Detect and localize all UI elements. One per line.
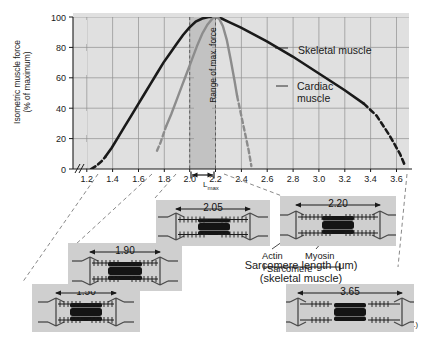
- lmax-label: Lmax: [203, 180, 219, 191]
- sarcomere-panel-2-05: 2.05: [156, 200, 270, 246]
- sarcomere-panel-3-65: 3.65: [286, 284, 414, 332]
- y-axis-title-line2: (% of maximum): [22, 52, 32, 113]
- figure-root: 100 80 60 40 20 0 1.2 1.4 1.6 1.8 2.0 2.…: [0, 0, 446, 337]
- actin-label: Actin: [262, 251, 283, 261]
- sarcomere-panel-value: 2.20: [280, 198, 396, 209]
- sarcomere-panel-1-90: 1.90: [68, 243, 182, 291]
- y-tick-labels: 100 80 60 40 20 0: [51, 13, 66, 175]
- x-tick-label: 1.6: [132, 174, 145, 184]
- x-tick-label: 3.2: [339, 174, 352, 184]
- myosin-filament: [334, 317, 366, 322]
- x-tick-label: 3.6: [390, 174, 403, 184]
- skeletal-muscle-label: Skeletal muscle: [298, 44, 372, 56]
- sarcomere-panel-1-50: 1.50: [32, 284, 140, 332]
- x-tick-label: 1.8: [158, 174, 171, 184]
- x-tick-labels: 1.2 1.4 1.6 1.8 2.0 2.2 2.4 2.6 2.8 3.0 …: [81, 174, 403, 184]
- myosin-filament: [322, 221, 354, 229]
- myosin-filament: [198, 223, 230, 231]
- x-tick-label: 2.6: [261, 174, 274, 184]
- x-tick-label: 2.8: [287, 174, 300, 184]
- myosin-filament: [108, 267, 142, 275]
- y-tick-label: 100: [51, 13, 66, 23]
- connector-3-65: [398, 174, 407, 267]
- y-tick-label: 60: [56, 73, 66, 83]
- myosin-filament: [334, 308, 366, 316]
- myosin-label: Myosin: [305, 251, 334, 261]
- y-tick-label: 20: [56, 134, 66, 144]
- sarcomere-panel-value: 3.65: [286, 286, 414, 297]
- sarcomere-label: Sarcomere: [267, 264, 312, 274]
- x-tick-label: 1.4: [106, 174, 119, 184]
- connector-1-90: [75, 174, 152, 245]
- y-ticks: [69, 17, 73, 169]
- x-tick-label: 3.4: [364, 174, 377, 184]
- sarcomere-panel-2-20: 2.20: [280, 196, 396, 246]
- range-of-max-force-label: Range of max. force: [208, 23, 218, 107]
- myosin-filament: [70, 308, 102, 316]
- y-axis-title: Isometric muscle force (% of maximum): [12, 17, 32, 147]
- cardiac-muscle-label: Cardiacmuscle: [297, 81, 333, 104]
- x-tick-label: 3.0: [313, 174, 326, 184]
- sarcomere-panel-value: 2.05: [156, 202, 270, 213]
- sarcomere-panel-value: 1.90: [68, 245, 182, 256]
- y-axis-title-line1: Isometric muscle force: [12, 40, 22, 124]
- y-tick-label: 40: [56, 104, 66, 114]
- y-tick-label: 80: [56, 43, 66, 53]
- x-tick-label: 1.2: [81, 174, 94, 184]
- myosin-filament: [334, 303, 366, 308]
- y-tick-label: 0: [61, 165, 66, 175]
